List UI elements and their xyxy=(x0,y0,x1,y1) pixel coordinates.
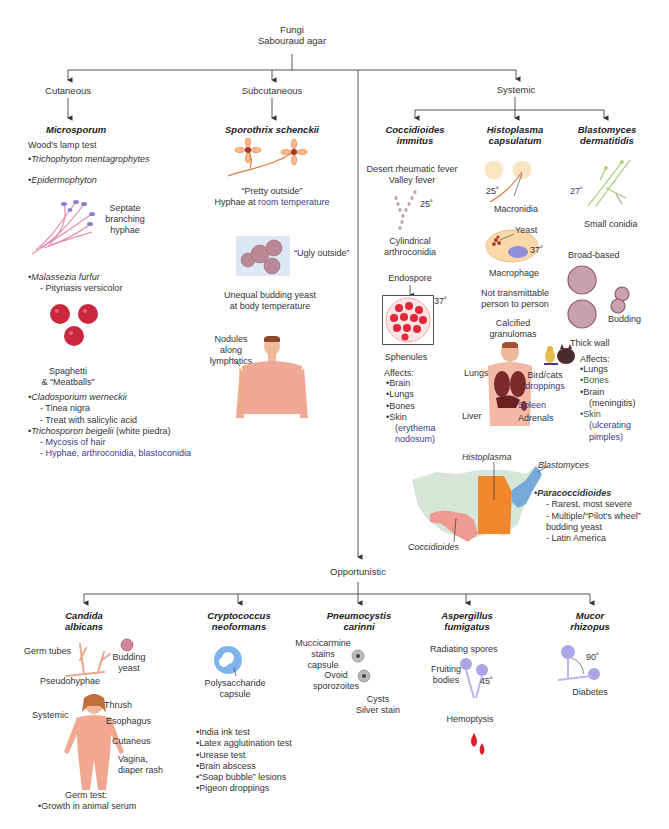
budding-label: Budding xyxy=(608,314,641,325)
hyphae-arthro-item: Hyphae, arthroconidia, blastoconidia xyxy=(28,448,191,459)
meatballs-illustration xyxy=(46,300,106,350)
macronidia-label: Macronidia xyxy=(484,204,548,215)
cutaneus-label: Cutaneus xyxy=(112,736,151,747)
droppings-label: Bird/cats droppings xyxy=(520,370,570,392)
polysaccharide-capsule-label: Polysaccharide capsule xyxy=(196,678,274,700)
macrophage-label: Macrophage xyxy=(478,268,550,279)
paracoccidioides-item: Paracoccidioides xyxy=(534,488,641,499)
esophagus-label: Esophagus xyxy=(106,716,151,727)
blasto-affects-brain: Brain xyxy=(580,387,636,398)
not-transmittable-label: Not transmittable person to person xyxy=(464,288,566,310)
small-conidia-label: Small conidia xyxy=(584,219,638,230)
sphenules-label: Sphenules xyxy=(376,352,436,363)
fevers-label: Desert rheumatic fever Valley fever xyxy=(360,164,464,186)
vagina-label: Vagina, diaper rash xyxy=(118,754,163,776)
germ-test-label: Germ test: xyxy=(56,790,116,801)
coccidioides-temp-25: 25˚ xyxy=(420,199,433,210)
malassezia-item: Malassezia furfur xyxy=(28,272,123,283)
affects-brain: Brain xyxy=(386,378,436,389)
blastomyces-title: Blastomyces dermatitidis xyxy=(570,124,644,147)
ovoid-sporozoites-label: Ovoid sporozoites xyxy=(312,670,360,692)
sporothrix-hyphae-illustration xyxy=(222,138,312,180)
mucor-title: Mucor rhizopus xyxy=(560,610,620,633)
germ-tubes-label: Germ tubes xyxy=(24,646,71,657)
cryptococcus-title: Cryptococcus neoformans xyxy=(196,610,282,633)
woods-lamp-test: Wood's lamp test xyxy=(28,140,150,150)
unequal-budding-label: Unequal budding yeast at body temperatur… xyxy=(214,290,326,312)
arthroconidia-label: Cylindrical arthroconidia xyxy=(372,236,448,258)
budding-yeast-illustration xyxy=(236,236,290,276)
trichophyton-item: Trichophyton mentagrophytes xyxy=(28,154,150,165)
blastomyces-temp-27: 27˚ xyxy=(570,186,583,197)
affects-skin: Skin xyxy=(386,412,436,423)
arthroconidia-illustration xyxy=(394,188,418,230)
spherule-illustration xyxy=(382,295,434,345)
map-label-coccidioides: Coccidioides xyxy=(408,542,459,553)
category-subcutaneous: Subcutaneous xyxy=(232,85,312,96)
cladosporium-item: Cladosporium werneckii xyxy=(28,392,191,403)
cryptococcus-list: India ink test Latex agglutination test … xyxy=(196,727,292,795)
granulomas-label: Calcified granulomas xyxy=(476,318,550,340)
histoplasma-temp-37: 37˚ xyxy=(530,245,543,256)
trichosporon-item: Trichosporon beigelii (white piedra) xyxy=(28,426,191,437)
histoplasma-temp-25: 25˚ xyxy=(486,186,499,197)
affects-bones: Bones xyxy=(386,401,436,412)
paracoccidioides-list: Paracoccidioides Rarest, most severe Mul… xyxy=(534,488,641,544)
septate-hyphae-label: Septate branching hyphae xyxy=(104,203,146,235)
pneumocystis-title: Pneumocystis carinni xyxy=(322,610,396,633)
affects-lungs: Lungs xyxy=(386,389,436,400)
root-node: Fungi Sabouraud agar xyxy=(252,24,332,47)
pretty-outside-label: “Pretty outside” xyxy=(206,186,338,197)
fruiting-bodies-label: Fruiting bodies xyxy=(426,664,466,686)
salicylic-item: Treat with salicylic acid xyxy=(28,415,191,426)
tinea-nigra-item: Tinea nigra xyxy=(28,403,191,414)
cysts-silver-label: Cysts Silver stain xyxy=(350,694,406,716)
thick-wall-label: Thick wall xyxy=(570,338,610,349)
diabetes-label: Diabetes xyxy=(560,687,620,698)
blasto-affects-skin: Skin xyxy=(580,409,636,420)
malassezia-list: Malassezia furfur Pityriasis versicolor xyxy=(28,272,123,295)
radiating-spores-label: Radiating spores xyxy=(430,644,498,655)
blastomyces-hyphae-illustration xyxy=(586,158,636,208)
category-systemic: Systemic xyxy=(478,84,554,95)
organ-spleen-label: Spleen xyxy=(518,400,546,411)
pityriasis-item: Pityriasis versicolor xyxy=(28,283,123,294)
germ-test-list: Growth in animal serum xyxy=(38,801,136,812)
capsule-illustration xyxy=(212,644,244,676)
septate-hyphae-illustration xyxy=(30,198,96,256)
category-opportunistic: Opportunistic xyxy=(318,566,398,577)
coccidioides-affects: Affects: Brain Lungs Bones Skin (erythem… xyxy=(384,368,436,446)
systemic-label: Systemic xyxy=(32,710,69,721)
candida-budding-yeast-label: Budding yeast xyxy=(108,652,150,674)
coccidioides-title: Coccidioides immitus xyxy=(382,124,448,147)
category-cutaneous: Cutaneous xyxy=(30,85,106,96)
mucor-angle: 90˚ xyxy=(586,652,599,663)
microsporum-title: Microsporum xyxy=(46,124,150,135)
blastomyces-affects: Affects: Lungs Bones Brain (meningitis) … xyxy=(580,354,636,443)
male-torso-illustration xyxy=(232,336,312,418)
endospore-label: Endospore xyxy=(380,273,440,284)
blasto-affects-bones: Bones xyxy=(580,375,636,386)
spaghetti-meatballs-label: Spaghetti & “Meatballs” xyxy=(38,366,98,388)
root-subtitle: Sabouraud agar xyxy=(252,35,332,46)
blood-drops-icon xyxy=(468,733,488,759)
broad-based-label: Broad-based xyxy=(568,250,620,261)
us-endemic-map xyxy=(408,462,548,548)
pseudohyphae-label: Pseudohyphae xyxy=(40,676,100,687)
pretty-outside-block: “Pretty outside” Hyphae at room temperat… xyxy=(206,186,338,208)
cutaneous-other-list: Cladosporium werneckii Tinea nigra Treat… xyxy=(28,392,191,460)
candida-title: Candida albicans xyxy=(54,610,114,633)
mucor-illustration xyxy=(558,644,608,684)
aspergillus-angle: 45˚ xyxy=(480,676,493,687)
mucicarmine-label: Muccicarmine stains capsule xyxy=(294,638,352,670)
blasto-affects-lungs: Lungs xyxy=(580,364,636,375)
root-title: Fungi xyxy=(252,24,332,35)
thrush-label: Thrush xyxy=(104,700,132,711)
coccidioides-temp-37: 37˚ xyxy=(434,296,447,307)
aspergillus-title: Aspergillus fumigatus xyxy=(430,610,504,633)
mycosis-hair-item: Mycosis of hair xyxy=(28,437,191,448)
organ-lungs-label: Lungs xyxy=(464,368,489,379)
epidermophyton-item: Epidermophyton xyxy=(28,175,150,186)
hemoptysis-label: Hemoptysis xyxy=(440,714,500,725)
organ-liver-label: Liver xyxy=(462,411,482,422)
